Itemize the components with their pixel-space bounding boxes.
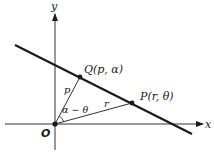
point-p-label: P(r, θ) <box>139 90 174 103</box>
segment-r-label: r <box>104 98 110 109</box>
point-q <box>78 75 83 80</box>
point-origin <box>52 121 57 126</box>
segment-p-label: p <box>64 84 71 95</box>
y-axis-label: y <box>50 0 58 13</box>
polar-line-diagram: y x O Q(p, α) P(r, θ) p r α − θ <box>0 0 214 153</box>
point-q-label: Q(p, α) <box>84 63 123 76</box>
diagram-svg: y x O Q(p, α) P(r, θ) p r α − θ <box>0 0 214 153</box>
angle-arc <box>59 116 64 122</box>
origin-label: O <box>41 127 50 140</box>
angle-label: α − θ <box>62 104 88 115</box>
point-p <box>130 101 135 106</box>
x-axis-label: x <box>205 118 212 131</box>
